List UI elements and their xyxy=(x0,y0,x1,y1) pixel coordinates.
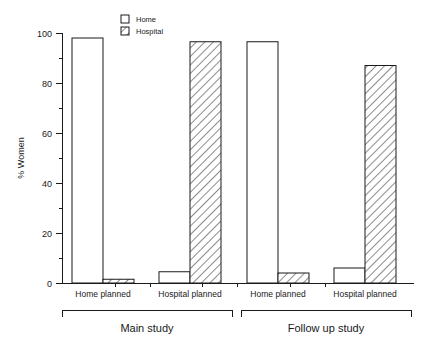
x-label-main-home-planned: Home planned xyxy=(75,289,131,299)
bar-followup-home-planned-home xyxy=(247,42,278,283)
bar-followup-home-planned-hospital xyxy=(278,273,309,283)
bar-main-hospital-planned-home xyxy=(159,272,190,283)
y-tick-label-40: 40 xyxy=(42,179,52,189)
y-axis: 100 80 60 40 20 0 % Women xyxy=(16,29,62,289)
y-tick-label-80: 80 xyxy=(42,79,52,89)
legend-swatch-home-icon xyxy=(121,15,129,23)
bar-main-home-planned-hospital xyxy=(103,279,134,283)
group-brackets xyxy=(62,310,411,317)
y-axis-title: % Women xyxy=(16,137,26,178)
bar-followup-hospital-planned-home xyxy=(334,268,365,283)
bar-followup-hospital-planned-hospital xyxy=(365,66,396,284)
group-labels: Main study Follow up study xyxy=(120,322,364,334)
y-tick-label-0: 0 xyxy=(47,279,52,289)
chart-container: Home Hospital 100 80 60 40 20 xyxy=(0,0,430,347)
x-axis xyxy=(62,283,414,287)
legend-label-hospital: Hospital xyxy=(136,27,163,36)
x-category-labels: Home planned Hospital planned Home plann… xyxy=(75,289,397,299)
bar-main-home-planned-home xyxy=(72,38,103,283)
x-label-main-hospital-planned: Hospital planned xyxy=(158,289,222,299)
bar-main-hospital-planned-hospital xyxy=(190,42,221,283)
x-label-followup-home-planned: Home planned xyxy=(250,289,306,299)
group-label-main-study: Main study xyxy=(120,322,174,334)
plot-area-background xyxy=(62,25,414,283)
bracket-follow-up-study xyxy=(241,310,411,317)
group-label-follow-up-study: Follow up study xyxy=(288,322,365,334)
y-tick-label-20: 20 xyxy=(42,229,52,239)
y-tick-label-60: 60 xyxy=(42,129,52,139)
bracket-main-study xyxy=(62,310,232,317)
legend-swatch-hospital-icon xyxy=(121,27,129,35)
y-tick-label-100: 100 xyxy=(37,29,52,39)
bar-chart: Home Hospital 100 80 60 40 20 xyxy=(0,0,430,347)
legend-label-home: Home xyxy=(136,15,156,24)
x-label-followup-hospital-planned: Hospital planned xyxy=(333,289,397,299)
